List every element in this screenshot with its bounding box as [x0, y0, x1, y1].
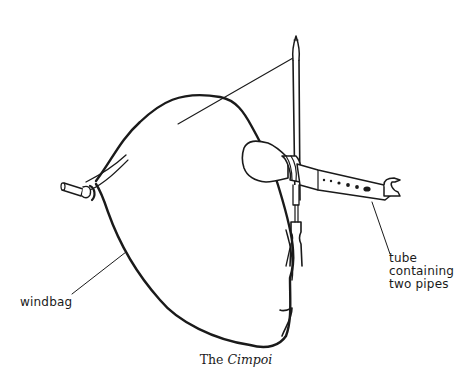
figure-caption: The Cimpoi: [0, 352, 472, 367]
caption-title: Cimpoi: [227, 352, 272, 367]
blowpipe: [61, 183, 94, 200]
cimpoi-illustration: [0, 0, 472, 387]
chanter-tube: [297, 164, 400, 200]
chanter-stock: [243, 141, 289, 182]
tube-label: tube containing two pipes: [389, 252, 469, 291]
windbag-leader-line: [72, 252, 126, 294]
windbag-outline: [96, 95, 293, 347]
tube-leader-line: [372, 202, 390, 254]
drone-string: [178, 58, 293, 124]
caption-prefix: The: [200, 352, 228, 367]
tube-label-line3: two pipes: [389, 278, 469, 291]
windbag-label: windbag: [20, 296, 72, 309]
